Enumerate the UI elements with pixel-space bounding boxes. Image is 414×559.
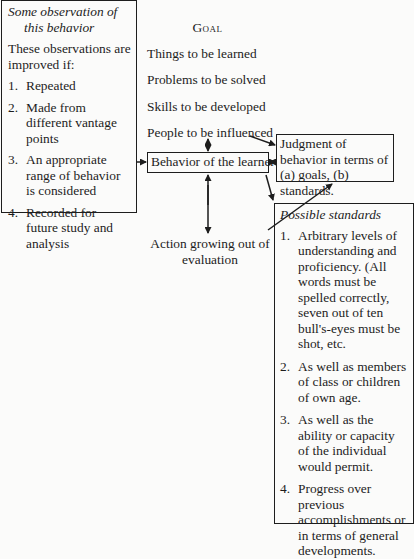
goal-heading: Goal	[140, 20, 275, 36]
item-number: 2.	[280, 359, 298, 406]
goal-item-things: Things to be learned	[147, 46, 257, 62]
goal-item-skills: Skills to be developed	[147, 99, 266, 115]
observation-item: 2. Made from different vantage points	[8, 100, 131, 147]
item-number: 3.	[8, 152, 26, 199]
standard-item: 3. As well as the ability or capacity of…	[280, 412, 409, 474]
observation-item: 1. Repeated	[8, 78, 131, 94]
item-number: 4.	[280, 481, 298, 559]
item-text: Progress over previous accomplishments o…	[298, 481, 409, 559]
arrow-behavior-to-standards	[266, 175, 273, 200]
observation-box: Some observation of this behavior These …	[1, 0, 137, 213]
item-number: 1.	[280, 228, 298, 352]
item-number: 4.	[8, 205, 26, 252]
standards-list: 1. Arbitrary levels of understanding and…	[280, 228, 409, 559]
observation-title-line1: Some observation of	[8, 4, 117, 19]
standards-box: Possible standards 1. Arbitrary levels o…	[274, 203, 414, 524]
item-number: 2.	[8, 100, 26, 147]
item-text: Repeated	[26, 78, 131, 94]
goal-item-problems: Problems to be solved	[147, 72, 266, 88]
behavior-box: Behavior of the learner	[147, 152, 269, 173]
item-number: 3.	[280, 412, 298, 474]
item-number: 1.	[8, 78, 26, 94]
standard-item: 1. Arbitrary levels of understanding and…	[280, 228, 409, 352]
observation-item: 3. An appropriate range of behavior is c…	[8, 152, 131, 199]
standards-title: Possible standards	[280, 207, 409, 223]
judgment-box: Judgment of behavior in terms of (a) goa…	[276, 134, 394, 182]
item-text: Made from different vantage points	[26, 100, 131, 147]
standard-item: 2. As well as members of class or childr…	[280, 359, 409, 406]
item-text: As well as members of class or children …	[298, 359, 409, 406]
item-text: Arbitrary levels of understanding and pr…	[298, 228, 409, 352]
item-text: As well as the ability or capacity of th…	[298, 412, 409, 474]
observation-list: 1. Repeated 2. Made from different vanta…	[8, 78, 131, 251]
item-text: Recorded for future study and analysis	[26, 205, 131, 252]
action-label: Action growing out of evaluation	[130, 236, 290, 267]
observation-item: 4. Recorded for future study and analysi…	[8, 205, 131, 252]
standard-item: 4. Progress over previous accomplishment…	[280, 481, 409, 559]
item-text: An appropriate range of behavior is cons…	[26, 152, 131, 199]
observation-title: Some observation of this behavior	[8, 4, 131, 35]
behavior-label: Behavior of the learner	[151, 154, 275, 169]
goal-item-people: People to be influenced	[147, 125, 273, 141]
observation-title-line2: this behavior	[8, 20, 131, 36]
observation-intro: These observations are improved if:	[8, 41, 131, 72]
